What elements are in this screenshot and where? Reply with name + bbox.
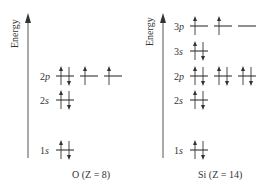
spin-up-arrow-icon <box>193 140 197 145</box>
axis-arrow-icon <box>160 13 166 23</box>
energy-axis-label: Energy <box>9 19 20 48</box>
level-2p: 2p <box>40 66 122 86</box>
orbital-paired <box>238 66 256 86</box>
level-label: 2p <box>40 71 50 82</box>
silicon-diagram: Energy 3p 3s <box>144 13 256 181</box>
spin-down-arrow-icon <box>249 81 253 86</box>
spin-up-arrow-icon <box>193 16 197 21</box>
level-2s: 2s <box>40 90 74 110</box>
silicon-caption: Si (Z = 14) <box>198 169 242 181</box>
spin-up-arrow-icon <box>217 16 221 21</box>
spin-down-arrow-icon <box>67 81 71 86</box>
spin-down-arrow-icon <box>201 56 205 61</box>
orbital-single <box>80 66 98 85</box>
spin-up-arrow-icon <box>217 66 221 71</box>
level-label: 2s <box>174 95 183 106</box>
orbital-paired <box>56 90 74 110</box>
spin-up-arrow-icon <box>241 66 245 71</box>
spin-down-arrow-icon <box>225 81 229 86</box>
orbital-paired <box>56 66 74 86</box>
spin-up-arrow-icon <box>193 41 197 46</box>
level-label: 3p <box>174 21 184 32</box>
level-3s: 3s <box>174 41 208 61</box>
orbital-paired <box>190 90 208 110</box>
energy-axis: Energy <box>144 13 166 158</box>
level-label: 3s <box>174 46 183 57</box>
axis-arrow-icon <box>25 13 31 23</box>
level-3p: 3p <box>174 16 256 35</box>
orbital-single <box>190 16 208 35</box>
orbital-paired <box>190 41 208 61</box>
energy-axis: Energy <box>9 13 31 158</box>
level-2p: 2p <box>174 66 256 86</box>
spin-up-arrow-icon <box>59 90 63 95</box>
level-label: 2p <box>174 71 184 82</box>
level-2s: 2s <box>174 90 208 110</box>
orbital-paired <box>190 66 208 86</box>
orbital-energy-diagrams: Energy 2p 2s <box>0 0 267 188</box>
spin-up-arrow-icon <box>193 90 197 95</box>
oxygen-caption: O (Z = 8) <box>72 169 110 181</box>
spin-up-arrow-icon <box>59 140 63 145</box>
orbital-paired <box>190 140 208 160</box>
orbital-single <box>104 66 122 85</box>
spin-up-arrow-icon <box>107 66 111 71</box>
spin-up-arrow-icon <box>193 66 197 71</box>
level-1s: 1s <box>174 140 208 160</box>
oxygen-diagram: Energy 2p 2s <box>9 13 122 181</box>
orbital-paired <box>214 66 232 86</box>
spin-up-arrow-icon <box>59 66 63 71</box>
orbital-single <box>214 16 232 35</box>
spin-down-arrow-icon <box>201 155 205 160</box>
level-label: 2s <box>40 95 49 106</box>
orbital-paired <box>56 140 74 160</box>
level-1s: 1s <box>40 140 74 160</box>
spin-down-arrow-icon <box>201 105 205 110</box>
spin-up-arrow-icon <box>83 66 87 71</box>
spin-down-arrow-icon <box>67 155 71 160</box>
spin-down-arrow-icon <box>67 105 71 110</box>
level-label: 1s <box>40 145 49 156</box>
level-label: 1s <box>174 145 183 156</box>
spin-down-arrow-icon <box>201 81 205 86</box>
energy-axis-label: Energy <box>144 17 155 46</box>
